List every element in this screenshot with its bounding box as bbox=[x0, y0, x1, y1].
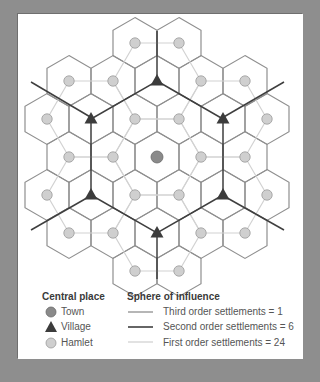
hamlet-icon bbox=[108, 152, 118, 162]
hamlet-icon bbox=[64, 76, 74, 86]
hamlet-icon bbox=[240, 228, 250, 238]
village-legend-icon bbox=[45, 321, 57, 332]
town-icon bbox=[151, 151, 163, 163]
hamlet-icon bbox=[130, 266, 140, 276]
legend-village-label: Village bbox=[61, 321, 91, 332]
legend-first-order-label: First order settlements = 24 bbox=[163, 337, 285, 348]
hamlet-icon bbox=[262, 114, 272, 124]
village-icon bbox=[151, 226, 164, 238]
hamlet-icon bbox=[240, 76, 250, 86]
hamlet-icon bbox=[262, 190, 272, 200]
hamlet-legend-icon bbox=[46, 338, 56, 348]
legend-second-order-label: Second order settlements = 6 bbox=[163, 321, 294, 332]
hamlet-icon bbox=[174, 114, 184, 124]
hamlet-icon bbox=[130, 38, 140, 48]
village-icon bbox=[217, 112, 230, 124]
hamlet-icon bbox=[64, 152, 74, 162]
hamlet-icon bbox=[196, 152, 206, 162]
hamlet-icon bbox=[196, 228, 206, 238]
hamlet-icon bbox=[42, 114, 52, 124]
town-marker bbox=[151, 151, 163, 163]
hamlet-icon bbox=[130, 114, 140, 124]
village-icon bbox=[85, 112, 98, 124]
hamlet-icon bbox=[240, 152, 250, 162]
village-icon bbox=[85, 188, 98, 200]
second-order-ray bbox=[222, 195, 284, 230]
hamlet-icon bbox=[174, 266, 184, 276]
legend-sphere-title: Sphere of influence bbox=[127, 291, 220, 302]
legend-third-order-label: Third order settlements = 1 bbox=[163, 306, 283, 317]
hamlet-icon bbox=[130, 190, 140, 200]
hamlet-icon bbox=[108, 228, 118, 238]
village-icon bbox=[217, 188, 230, 200]
village-icon bbox=[151, 74, 164, 86]
town-legend-icon bbox=[46, 307, 56, 317]
second-order-ray bbox=[222, 82, 284, 118]
hamlet-icon bbox=[174, 190, 184, 200]
hamlet-icon bbox=[64, 228, 74, 238]
legend-hamlet-label: Hamlet bbox=[61, 337, 93, 348]
hamlet-icon bbox=[196, 76, 206, 86]
hamlet-icon bbox=[174, 38, 184, 48]
second-order-ray bbox=[31, 82, 92, 118]
legend-town-label: Town bbox=[61, 306, 84, 317]
hamlet-icon bbox=[42, 190, 52, 200]
legend-central-place-title: Central place bbox=[42, 291, 105, 302]
second-order-ray bbox=[31, 195, 92, 230]
hamlet-icon bbox=[108, 76, 118, 86]
